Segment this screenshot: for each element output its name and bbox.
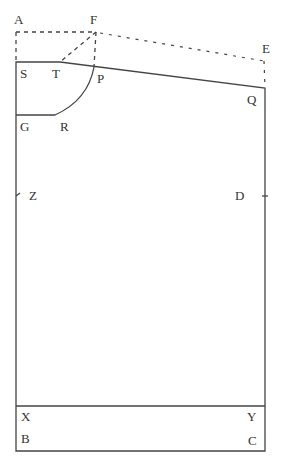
label-Z: Z	[29, 188, 37, 203]
label-Q: Q	[247, 92, 257, 107]
line-F-P	[94, 32, 96, 67]
label-D: D	[235, 188, 244, 203]
line-E-Q	[264, 61, 265, 88]
label-F: F	[90, 12, 97, 27]
line-F-T	[60, 32, 96, 62]
label-T: T	[52, 66, 60, 81]
label-R: R	[60, 119, 69, 134]
label-E: E	[262, 41, 270, 56]
outline-S-T-Q-C-B	[16, 62, 265, 451]
label-B: B	[21, 431, 30, 446]
label-C: C	[248, 433, 257, 448]
label-G: G	[20, 119, 29, 134]
pattern-diagram: A F E S T P Q G R Z D X Y B C	[0, 0, 282, 456]
line-F-E	[100, 33, 264, 61]
label-S: S	[20, 66, 27, 81]
label-X: X	[21, 409, 31, 424]
label-P: P	[97, 71, 104, 86]
label-Y: Y	[247, 409, 257, 424]
label-A: A	[14, 12, 24, 27]
